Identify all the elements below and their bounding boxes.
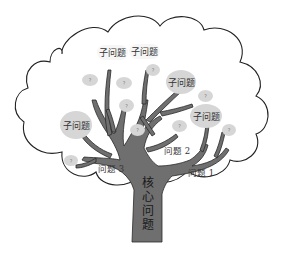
question-mark: ? (178, 123, 181, 129)
unknown-cause-bubble: ? (119, 99, 134, 112)
question-mark: ? (228, 127, 231, 133)
unknown-cause-bubble: ? (64, 155, 78, 166)
question-mark: ? (123, 80, 126, 86)
core-char: 题 (138, 218, 158, 232)
sub-problem-bubble: 子问题 (60, 111, 92, 139)
branch-problem-label: 问题 3 (98, 162, 124, 174)
question-mark: ? (89, 77, 92, 83)
sub-problem-label: 子问题 (63, 119, 90, 132)
branch-problem-label: 问题 1 (188, 166, 214, 178)
core-problem-label: 核 心 问 题 (138, 176, 158, 232)
question-mark: ? (152, 67, 155, 73)
question-mark: ? (136, 127, 139, 133)
core-char: 核 (138, 176, 158, 190)
unknown-cause-bubble: ? (222, 124, 236, 136)
core-char: 心 (138, 190, 158, 204)
unknown-cause-bubble: ? (82, 74, 98, 86)
problem-tree-diagram: 子问题 子问题 子问题 子问题 子问题 ? ? ? ? ? ? ? ? ? 问题… (0, 0, 281, 254)
unknown-cause-bubble: ? (146, 64, 160, 76)
sub-problem-label: 子问题 (193, 110, 220, 123)
unknown-cause-bubble: ? (172, 120, 187, 132)
sub-problem-label: 子问题 (97, 45, 128, 60)
sub-problem-bubble: 子问题 (190, 104, 222, 128)
sub-problem-label: 子问题 (168, 76, 195, 89)
question-mark: ? (204, 93, 207, 99)
sub-problem-label: 子问题 (129, 44, 160, 59)
unknown-cause-bubble: ? (130, 124, 145, 136)
branch-problem-label: 问题 2 (164, 144, 190, 156)
question-mark: ? (125, 103, 128, 109)
unknown-cause-bubble: ? (198, 90, 213, 102)
core-char: 问 (138, 204, 158, 218)
sub-problem-bubble: 子问题 (166, 70, 196, 94)
question-mark: ? (70, 158, 73, 164)
unknown-cause-bubble: ? (116, 77, 132, 89)
